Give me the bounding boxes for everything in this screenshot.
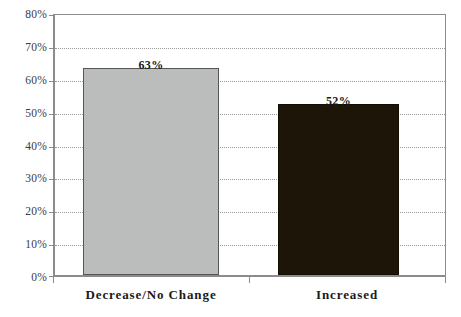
y-axis-tick-label-70: 70% <box>3 42 47 54</box>
y-axis-tick-40 <box>49 147 55 148</box>
x-axis-category-label-increased: Increased <box>249 288 445 301</box>
plot-area <box>53 14 446 277</box>
bar-value-label-decrease-no-change: 63% <box>80 59 222 71</box>
x-axis-tick-left <box>53 277 54 283</box>
y-axis-tick-label-50: 50% <box>3 108 47 120</box>
y-axis-tick-label-30: 30% <box>3 173 47 185</box>
bar-value-label-increased: 52% <box>275 95 402 107</box>
y-axis-tick-80 <box>49 15 55 16</box>
y-axis: 80% 70% 60% 50% 40% 30% 20% 10% 0% <box>0 14 47 277</box>
y-axis-tick-label-0: 0% <box>3 272 47 284</box>
bar-decrease-no-change[interactable] <box>83 68 219 275</box>
y-axis-tick-30 <box>49 179 55 180</box>
y-axis-tick-label-20: 20% <box>3 206 47 218</box>
bar-chart: 80% 70% 60% 50% 40% 30% 20% 10% 0% <box>0 0 461 317</box>
y-axis-tick-60 <box>49 81 55 82</box>
bar-increased[interactable] <box>278 104 399 275</box>
gridline-70 <box>55 48 445 49</box>
y-axis-tick-label-60: 60% <box>3 75 47 87</box>
x-axis-tick-right <box>445 277 446 283</box>
y-axis-tick-70 <box>49 48 55 49</box>
y-axis-tick-10 <box>49 245 55 246</box>
y-axis-tick-label-80: 80% <box>3 9 47 21</box>
y-axis-tick-label-10: 10% <box>3 239 47 251</box>
y-axis-tick-0 <box>49 276 55 277</box>
y-axis-tick-50 <box>49 114 55 115</box>
x-axis-category-label-decrease-no-change: Decrease/No Change <box>53 288 249 301</box>
y-axis-tick-label-40: 40% <box>3 141 47 153</box>
x-axis-tick-middle <box>249 277 250 283</box>
y-axis-tick-20 <box>49 212 55 213</box>
